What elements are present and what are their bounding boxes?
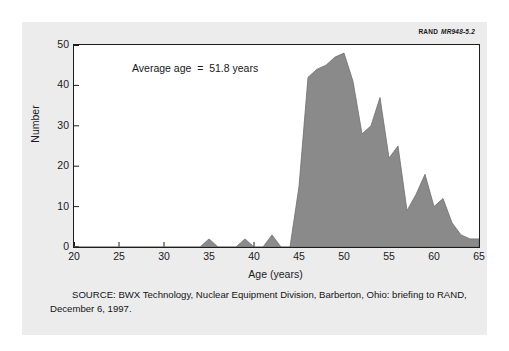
source-note-line-1: SOURCE: BWX Technology, Nuclear Equipmen… bbox=[50, 289, 424, 300]
x-tick-label: 25 bbox=[102, 251, 136, 262]
y-tick-label: 40 bbox=[45, 79, 69, 90]
x-axis-title: Age (years) bbox=[73, 268, 478, 280]
y-tick-label: 30 bbox=[45, 120, 69, 131]
x-tick-label: 65 bbox=[462, 251, 496, 262]
y-tick-label: 10 bbox=[45, 201, 69, 212]
x-tick-label: 55 bbox=[372, 251, 406, 262]
x-tick-label: 50 bbox=[327, 251, 361, 262]
y-tick-label: 20 bbox=[45, 160, 69, 171]
plot-frame bbox=[73, 44, 480, 248]
area-series-path bbox=[74, 53, 479, 247]
y-axis-title: Number bbox=[29, 89, 41, 159]
figure-card: RANDMR948-5.2 01020304050 Number 2025303… bbox=[22, 22, 487, 335]
x-tick-label: 20 bbox=[57, 251, 91, 262]
x-tick-label: 45 bbox=[282, 251, 316, 262]
y-tick-label: 50 bbox=[45, 39, 69, 50]
average-age-annotation: Average age = 51.8 years bbox=[132, 62, 258, 74]
x-tick-label: 60 bbox=[417, 251, 451, 262]
y-axis-tick-labels: 01020304050 bbox=[41, 44, 69, 246]
x-tick-label: 40 bbox=[237, 251, 271, 262]
source-note: SOURCE: BWX Technology, Nuclear Equipmen… bbox=[50, 288, 470, 315]
x-tick-label: 30 bbox=[147, 251, 181, 262]
area-chart-svg bbox=[74, 45, 479, 247]
y-tick-label: 0 bbox=[45, 241, 69, 252]
x-tick-label: 35 bbox=[192, 251, 226, 262]
x-axis-tick-labels: 20253035404550556065 bbox=[74, 251, 479, 267]
